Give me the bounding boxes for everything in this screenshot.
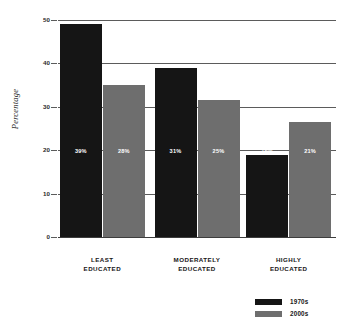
y-tick-label: 40 <box>30 59 50 66</box>
plot-area: 0102030405039%28%31%25%15%21% <box>58 20 336 237</box>
y-tick-label: 10 <box>30 190 50 197</box>
category-label-moderately-educated: MODERATELYEDUCATED <box>147 256 247 273</box>
y-tick-label: 50 <box>30 16 50 23</box>
bar-value-label: 15% <box>246 148 288 154</box>
bar-2000s-least-educated: 28% <box>103 85 145 237</box>
legend-label: 1970s <box>290 298 309 305</box>
category-label-line: HIGHLY <box>239 256 339 265</box>
y-axis-title: Percentage <box>10 64 20 154</box>
bar-2000s-moderately-educated: 25% <box>198 100 240 237</box>
bar-value-label: 31% <box>155 148 197 154</box>
bar-value-label: 28% <box>103 148 145 154</box>
y-tick-label: 30 <box>30 103 50 110</box>
gridline-0 <box>58 237 336 238</box>
y-tick-mark-10 <box>51 194 57 195</box>
category-label-line: EDUCATED <box>52 265 152 274</box>
legend-item-1970s[interactable]: 1970s <box>255 297 345 306</box>
bar-1970s-highly-educated: 15% <box>246 155 288 237</box>
legend-label: 2000s <box>290 310 309 317</box>
bar-1970s-least-educated: 39% <box>60 24 102 237</box>
category-label-highly-educated: HIGHLYEDUCATED <box>239 256 339 273</box>
legend-item-2000s[interactable]: 2000s <box>255 309 345 318</box>
category-label-line: LEAST <box>52 256 152 265</box>
y-tick-mark-50 <box>51 20 57 21</box>
y-tick-label: 20 <box>30 146 50 153</box>
chart-legend: 1970s2000s <box>255 297 345 321</box>
legend-swatch-2000s <box>255 311 282 317</box>
category-label-line: EDUCATED <box>147 265 247 274</box>
y-tick-mark-0 <box>51 237 57 238</box>
bar-value-label: 39% <box>60 148 102 154</box>
bar-2000s-highly-educated: 21% <box>289 122 331 237</box>
y-tick-mark-20 <box>51 150 57 151</box>
category-label-least-educated: LEASTEDUCATED <box>52 256 152 273</box>
y-tick-mark-40 <box>51 63 57 64</box>
category-label-line: MODERATELY <box>147 256 247 265</box>
legend-swatch-1970s <box>255 299 282 305</box>
gridline-50 <box>58 20 336 21</box>
category-label-line: EDUCATED <box>239 265 339 274</box>
y-tick-mark-30 <box>51 107 57 108</box>
bar-1970s-moderately-educated: 31% <box>155 68 197 237</box>
bar-value-label: 25% <box>198 148 240 154</box>
bar-chart: Percentage 0102030405039%28%31%25%15%21%… <box>0 0 353 330</box>
bar-value-label: 21% <box>289 148 331 154</box>
y-tick-label: 0 <box>30 233 50 240</box>
